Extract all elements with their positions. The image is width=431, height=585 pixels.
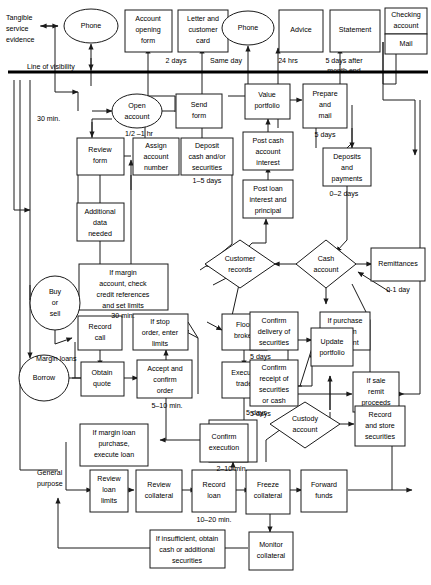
node-additional-line-1: Additional <box>84 208 116 216</box>
conn-receipt-update-a <box>300 348 312 386</box>
node-if-stop-order[interactable]: If stop order, enter limits <box>133 314 188 350</box>
conn-mail-down <box>383 42 415 155</box>
node-ifmarginloan-line-2: purchase, <box>98 440 129 448</box>
annotation-half-1-hr: 1/2 –1 hr <box>125 130 154 138</box>
node-confirmdelivery-line-1: Confirm <box>262 317 287 325</box>
node-ifinsufficient-line-2: cash or additional <box>159 546 215 554</box>
node-if-insufficient-obtain[interactable]: If insufficient, obtain cash or addition… <box>150 530 225 568</box>
node-review-loan-limits[interactable]: Review loan limits <box>90 470 128 512</box>
node-deposit-line-2: cash and/or <box>188 153 226 161</box>
node-forward-funds[interactable]: Forward funds <box>301 470 347 512</box>
node-ifstop-line-1: If stop <box>150 318 169 326</box>
node-forwardfunds-line-1: Forward <box>311 481 337 489</box>
node-buysell-line-2: or <box>52 299 59 307</box>
node-ifmarginloan-line-3: execute loan <box>94 451 134 459</box>
evidence-label-line-2: service <box>6 25 29 33</box>
node-advice[interactable]: Advice <box>279 10 323 52</box>
node-additional-data-needed[interactable]: Additional data needed <box>77 203 124 241</box>
node-if-margin-account-check[interactable]: If margin account, check credit referenc… <box>79 264 168 310</box>
node-postcash-line-2: account <box>256 148 281 156</box>
node-record-call[interactable]: Record call <box>78 316 122 350</box>
node-confirmreceipt-line-3: securities <box>259 386 289 394</box>
evidence-label-line-3: evidence <box>6 36 34 44</box>
node-remittances-label: Remittances <box>378 260 418 268</box>
node-customer-records[interactable]: Customer records <box>205 240 275 288</box>
node-send-form-line-2: form <box>192 112 206 120</box>
node-ifstop-line-2: order, enter <box>142 329 179 337</box>
annotation-24-hrs: 24 hrs <box>278 57 298 65</box>
node-assign-line-2: account <box>144 153 169 161</box>
node-remittances[interactable]: Remittances <box>371 248 425 281</box>
conn-to-floorbroker <box>207 322 222 330</box>
node-if-margin-loan-purchase[interactable]: If margin loan purchase, execute loan <box>80 424 148 466</box>
node-cash-account-line-1: Cash <box>318 255 335 263</box>
node-assign-line-1: Assign <box>145 142 166 150</box>
node-accept-line-2: confirm <box>153 376 176 384</box>
node-buy-or-sell[interactable]: Buy or sell <box>30 276 80 330</box>
node-phone-2[interactable]: Phone <box>222 11 274 45</box>
node-forwardfunds-line-2: funds <box>315 492 333 500</box>
annotation-5-10-min: 5–10 min. <box>151 402 182 410</box>
node-recordstore-line-3: securities <box>365 433 395 441</box>
node-deposit-cash-securities[interactable]: Deposit cash and/or securities <box>181 138 233 175</box>
annotation-10-20-min: 10–20 min. <box>196 516 231 524</box>
blueprint-svg: Phone Account opening form Letter and cu… <box>0 0 431 585</box>
node-send-form[interactable]: Send form <box>176 94 222 128</box>
node-record-loan[interactable]: Record loan <box>192 470 236 512</box>
node-recordloan-line-1: Record <box>203 481 226 489</box>
node-freezecollateral-line-1: Freeze <box>257 481 279 489</box>
node-letter-customer-card[interactable]: Letter and customer card <box>178 10 228 52</box>
node-confirm-delivery-securities[interactable]: Confirm delivery of securities <box>250 312 298 350</box>
node-prepare-line-1: Prepare <box>312 90 337 98</box>
node-mail-label: Mail <box>399 40 412 48</box>
annotation-30-min-margin: 30 min. <box>111 312 134 320</box>
node-ifmargincheck-line-4: and set limits <box>102 302 144 310</box>
node-postloan-line-2: interest and <box>249 196 286 204</box>
node-custody-line-2: account <box>293 426 318 434</box>
node-phone-1[interactable]: Phone <box>64 9 118 43</box>
annotation-2-10-min: 2–10 min. <box>216 465 247 473</box>
node-confirmdelivery-line-2: delivery of <box>258 328 290 336</box>
node-accept-line-3: order <box>157 387 174 395</box>
node-value-portfolio[interactable]: Value portfolio <box>245 84 290 119</box>
node-account-opening-form-line-3: form <box>141 37 155 45</box>
node-confirm-receipt[interactable]: Confirm receipt of securities or cash <box>250 360 298 406</box>
node-ifmarginloan-line-1: If margin loan <box>93 429 136 437</box>
node-phone-1-label: Phone <box>81 22 102 30</box>
node-record-store-securities[interactable]: Record and store securities <box>355 406 405 446</box>
node-open-account[interactable]: Open account <box>112 94 162 128</box>
service-blueprint-canvas: Phone Account opening form Letter and cu… <box>0 0 431 585</box>
node-statement-label: Statement <box>339 26 371 34</box>
node-letter-line-3: card <box>196 37 210 45</box>
annotation-5-days-custody: 5 days <box>246 409 267 417</box>
annotation-5-days-month-1: 5 days after <box>325 57 363 65</box>
node-deposit-line-1: Deposit <box>195 142 219 150</box>
conn-deposits-in-a <box>347 105 352 148</box>
node-cash-account[interactable]: Cash account <box>296 240 356 288</box>
node-post-loan-interest-principal[interactable]: Post loan interest and principal <box>243 180 293 218</box>
node-prepare-and-mail[interactable]: Prepare and mail <box>303 84 347 128</box>
node-post-cash-account-interest[interactable]: Post cash account interest <box>243 132 293 170</box>
node-update-portfolio[interactable]: Update portfolio <box>311 328 353 366</box>
node-review-collateral[interactable]: Review collateral <box>136 470 182 512</box>
node-review-form-line-2: form <box>93 157 107 165</box>
node-freeze-collateral[interactable]: Freeze collateral <box>246 470 290 514</box>
node-assign-account-number[interactable]: Assign account number <box>133 138 179 175</box>
node-review-form-line-1: Review <box>88 146 112 154</box>
node-mail[interactable]: Mail <box>385 34 427 54</box>
node-letter-line-1: Letter and <box>187 15 219 23</box>
node-confirm-execution[interactable]: Confirm execution <box>200 424 248 462</box>
node-buysell-line-1: Buy <box>49 288 62 296</box>
node-obtainquote-line-2: quote <box>93 380 111 388</box>
node-obtain-quote[interactable]: Obtain quote <box>81 362 124 396</box>
node-accept-confirm-order[interactable]: Accept and confirm order <box>137 360 192 398</box>
node-value-portfolio-line-1: Value <box>258 91 276 99</box>
node-deposits-and-payments[interactable]: Deposits and payments <box>323 148 371 186</box>
node-monitor-collateral[interactable]: Monitor collateral <box>249 532 293 570</box>
node-checking-account[interactable]: Checking account <box>385 8 427 34</box>
node-statement[interactable]: Statement <box>330 10 380 52</box>
node-account-opening-form[interactable]: Account opening form <box>125 10 172 52</box>
node-review-form[interactable]: Review form <box>77 138 124 175</box>
node-prepare-line-3: mail <box>318 112 331 120</box>
node-reviewloanlimits-line-2: loan <box>102 486 115 494</box>
